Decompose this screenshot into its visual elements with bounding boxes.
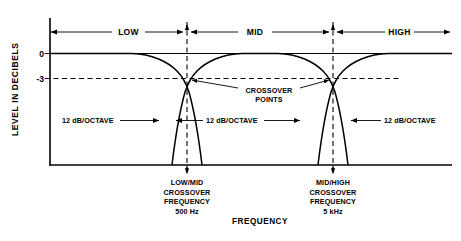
high-pass-response-curve (318, 54, 452, 166)
slope-label-high: 12 dB/OCTAVE (384, 116, 436, 125)
low-mid-frequency-value: 500 Hz (175, 207, 199, 216)
crossover-frequency-label-mid-high: MID/HIGH CROSSOVER FREQUENCY 5 kHz (310, 178, 358, 216)
low-pass-response-curve (50, 54, 202, 166)
crossover-callout-leader-left (192, 80, 238, 88)
slope-label-mid: 12 dB/OCTAVE (206, 116, 258, 125)
slope-annotations: 12 dB/OCTAVE 12 dB/OCTAVE 12 dB/OCTAVE (62, 116, 436, 125)
y-axis-group: LEVEL IN DECIBELS 0 -3 (10, 42, 50, 136)
mid-high-label-line1: MID/HIGH (316, 178, 350, 187)
slope-label-low: 12 dB/OCTAVE (62, 116, 114, 125)
crossover-callout-line2: POINTS (255, 95, 282, 104)
crossover-points-callout: CROSSOVER POINTS (192, 80, 329, 104)
response-curves (50, 54, 452, 166)
crossover-callout-line1: CROSSOVER (246, 86, 294, 95)
band-label-high: HIGH (388, 27, 410, 37)
mid-high-frequency-value: 5 kHz (323, 207, 343, 216)
mid-high-label-line2: CROSSOVER (310, 188, 358, 197)
band-label-mid: MID (247, 27, 263, 37)
y-tick-minus3: -3 (36, 74, 44, 84)
band-pass-response-curve (172, 54, 348, 166)
low-mid-label-line1: LOW/MID (171, 178, 204, 187)
mid-high-label-line3: FREQUENCY (310, 197, 356, 206)
low-mid-label-line3: FREQUENCY (164, 197, 210, 206)
band-label-low: LOW (118, 27, 139, 37)
figure-canvas: LEVEL IN DECIBELS 0 -3 LOW MID HIGH (0, 0, 461, 241)
x-axis-title: FREQUENCY (232, 217, 288, 226)
crossover-callout-leader-right (300, 80, 329, 88)
crossover-response-diagram: LEVEL IN DECIBELS 0 -3 LOW MID HIGH (0, 0, 461, 241)
y-axis-title: LEVEL IN DECIBELS (10, 42, 20, 136)
band-span-row: LOW MID HIGH (51, 27, 450, 37)
crossover-frequency-label-low-mid: LOW/MID CROSSOVER FREQUENCY 500 Hz (164, 178, 212, 216)
low-mid-label-line2: CROSSOVER (164, 188, 212, 197)
y-tick-0: 0 (39, 49, 44, 59)
